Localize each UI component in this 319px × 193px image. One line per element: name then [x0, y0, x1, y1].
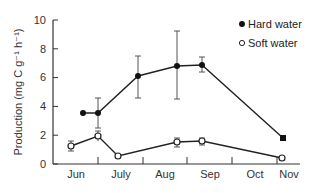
svg-text:Oct: Oct [246, 168, 263, 180]
svg-text:Aug: Aug [155, 168, 175, 180]
svg-text:Jun: Jun [67, 168, 85, 180]
svg-text:4: 4 [40, 100, 46, 112]
hard-water-marker-icon [239, 21, 245, 27]
y-axis-label: Production (mg C g⁻¹ h⁻¹) [12, 29, 24, 156]
svg-text:10: 10 [34, 14, 46, 26]
soft-water-marker-icon [239, 40, 244, 45]
y-ticks [53, 20, 58, 164]
svg-text:Sep: Sep [200, 168, 220, 180]
svg-text:2: 2 [40, 129, 46, 141]
legend: Hard water Soft water [239, 18, 302, 49]
production-chart: 0 2 4 6 8 10 Jun July Aug Sep Oct Nov Pr… [0, 0, 319, 193]
series-soft-water [68, 131, 285, 161]
x-tick-labels: Jun July Aug Sep Oct Nov [67, 168, 299, 180]
legend-hard-water: Hard water [248, 18, 302, 30]
svg-text:8: 8 [40, 43, 46, 55]
svg-text:0: 0 [40, 158, 46, 170]
y-tick-labels: 0 2 4 6 8 10 [34, 14, 46, 170]
svg-text:6: 6 [40, 71, 46, 83]
x-ticks [98, 157, 277, 164]
svg-text:Nov: Nov [279, 168, 299, 180]
legend-soft-water: Soft water [248, 37, 298, 49]
svg-text:July: July [111, 168, 131, 180]
